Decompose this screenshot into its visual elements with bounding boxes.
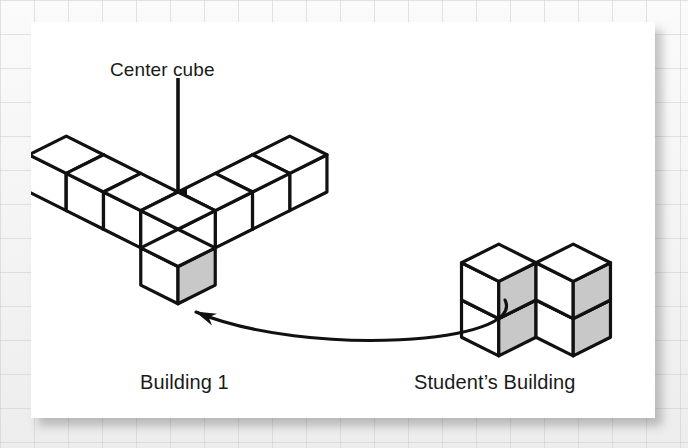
figure-panel: Center cube Building 1 Student’s Buildin…	[31, 22, 655, 418]
building-students-building	[462, 244, 611, 356]
isometric-diagram-canvas	[31, 22, 655, 418]
label-building-1: Building 1	[140, 371, 229, 394]
label-students-building: Student’s Building	[414, 371, 576, 394]
buildings-layer	[31, 136, 610, 356]
label-center-cube: Center cube	[110, 59, 215, 81]
